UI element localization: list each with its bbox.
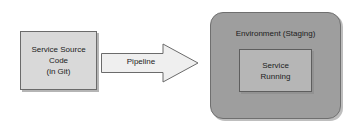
source-box-line-1: Service Source [31,44,85,55]
pipeline-label: Pipeline [101,57,181,66]
service-running-line-1: Service [262,60,289,71]
environment-panel: Environment (Staging) Service Running [210,12,341,119]
service-running-line-2: Running [261,71,291,82]
diagram-canvas: Service Source Code (in Git) Pipeline En… [0,0,353,128]
service-source-code-box: Service Source Code (in Git) [20,31,97,90]
environment-label: Environment (Staging) [211,29,340,38]
source-box-line-2: Code [49,55,68,66]
service-running-box: Service Running [239,49,312,92]
source-box-line-3: (in Git) [47,66,71,77]
